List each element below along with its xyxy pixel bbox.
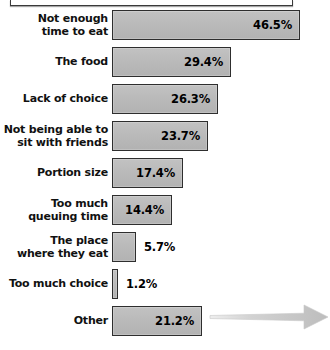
category-label: Portion size: [0, 167, 108, 180]
bar-track: 14.4%: [112, 195, 326, 225]
bar-chart: Not enough time to eat 46.5% The food 29…: [0, 10, 326, 343]
bar-track: 23.7%: [112, 121, 326, 151]
bar: 26.3%: [112, 84, 218, 114]
chart-row: Not enough time to eat 46.5%: [0, 10, 326, 40]
bar: [112, 269, 118, 299]
bar-value-label: 29.4%: [184, 55, 223, 69]
bar: [112, 232, 136, 262]
category-label: The place where they eat: [0, 235, 108, 260]
bar-value-label: 17.4%: [136, 166, 175, 180]
bar-track: 5.7%: [112, 232, 326, 262]
chart-row: Other 21.2%: [0, 306, 326, 336]
chart-row: Lack of choice 26.3%: [0, 84, 326, 114]
category-label: Lack of choice: [0, 93, 108, 106]
bar-track: 21.2%: [112, 306, 326, 336]
bar-value-label: 1.2%: [126, 277, 157, 291]
bar-value-label: 46.5%: [253, 18, 292, 32]
bar-value-label: 23.7%: [161, 129, 200, 143]
category-label: Not being able to sit with friends: [0, 124, 108, 149]
bar-value-label: 21.2%: [155, 314, 194, 328]
bar-track: 17.4%: [112, 158, 326, 188]
bar-track: 1.2%: [112, 269, 326, 299]
chart-row: Too much choice 1.2%: [0, 269, 326, 299]
bar-value-label: 26.3%: [171, 92, 210, 106]
bar: 23.7%: [112, 121, 208, 151]
bar-track: 46.5%: [112, 10, 326, 40]
bar: 21.2%: [112, 306, 202, 336]
bar: 17.4%: [112, 158, 183, 188]
bar-track: 29.4%: [112, 47, 326, 77]
bar-value-label: 5.7%: [144, 240, 175, 254]
chart-row: Not being able to sit with friends 23.7%: [0, 121, 326, 151]
category-label: Other: [0, 315, 108, 328]
cropped-title-box: [10, 0, 293, 6]
bar: 29.4%: [112, 47, 231, 77]
chart-row: Too much queuing time 14.4%: [0, 195, 326, 225]
bar-track: 26.3%: [112, 84, 326, 114]
chart-row: Portion size 17.4%: [0, 158, 326, 188]
chart-row: The food 29.4%: [0, 47, 326, 77]
category-label: The food: [0, 56, 108, 69]
bar: 14.4%: [112, 195, 172, 225]
category-label: Too much queuing time: [0, 198, 108, 223]
bar-value-label: 14.4%: [125, 203, 164, 217]
bar: 46.5%: [112, 10, 300, 40]
category-label: Too much choice: [0, 278, 108, 291]
chart-row: The place where they eat 5.7%: [0, 232, 326, 262]
category-label: Not enough time to eat: [0, 13, 108, 38]
